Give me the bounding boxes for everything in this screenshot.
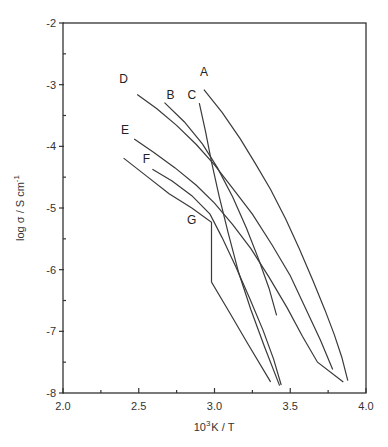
x-tick-label: 2.5 [131,400,146,412]
x-axis-label-exponent: 3 [206,419,211,428]
curve-b [165,103,277,316]
curve-label-a: A [200,65,208,79]
plot-frame [63,23,366,393]
curve-label-g: G [187,213,196,227]
x-tick-label: 2.0 [55,400,70,412]
curves [124,90,348,386]
x-axis-ticks: 2.02.53.03.54.0 [55,388,373,412]
curve-g [124,158,271,382]
x-tick-label: 3.0 [207,400,222,412]
x-tick-label: 4.0 [358,400,373,412]
curve-label-c: C [187,88,196,102]
curve-label-e: E [121,123,129,137]
y-axis-label-main: log σ / S cm [14,182,26,241]
y-tick-label: -3 [46,79,56,91]
curve-label-d: D [119,72,128,86]
curve-a [204,90,348,381]
y-tick-label: -8 [46,387,56,399]
y-tick-label: -5 [46,202,56,214]
x-axis-label: 103K / T [194,419,235,433]
y-tick-label: -6 [46,264,56,276]
chart: 2.02.53.03.54.0 -2-3-4-5-6-7-8 ABCDEFG 1… [0,0,388,447]
curve-f [152,169,281,385]
y-axis-label-exponent: -1 [12,175,21,183]
curve-d [137,95,333,370]
curve-label-b: B [167,88,175,102]
curve-e [134,139,343,382]
curve-label-f: F [143,152,150,166]
y-axis-label: log σ / S cm-1 [12,175,26,241]
y-tick-label: -4 [46,140,56,152]
x-axis-label-unit: K / T [211,421,234,433]
curve-labels: ABCDEFG [119,65,208,227]
y-tick-label: -2 [46,17,56,29]
x-axis-label-base: 10 [194,421,206,433]
x-tick-label: 3.5 [283,400,298,412]
y-tick-label: -7 [46,325,56,337]
